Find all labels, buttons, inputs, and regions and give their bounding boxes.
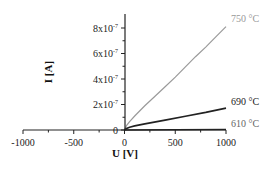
y-tick-label: 2x10-7 — [93, 99, 118, 110]
series-line — [125, 27, 227, 130]
x-tick-label: -1000 — [11, 137, 34, 148]
x-tick-label: 500 — [168, 137, 183, 148]
series-label: 690 °C — [231, 96, 259, 107]
y-tick-label: 8x10-7 — [93, 23, 118, 34]
series-labels: 750 °C690 °C610 °C — [231, 13, 259, 129]
y-tick-label: 0 — [113, 125, 118, 136]
x-axis-title: U [V] — [112, 147, 138, 159]
iv-chart: -1000-50005001000 02x10-74x10-76x10-78x1… — [0, 0, 274, 174]
series-label: 750 °C — [231, 13, 259, 24]
x-ticks: -1000-50005001000 — [11, 130, 236, 148]
series-layer — [125, 27, 227, 130]
y-ticks: 02x10-74x10-76x10-78x10-7 — [93, 23, 125, 136]
x-tick-label: 1000 — [216, 137, 236, 148]
y-axis-title: I [A] — [42, 61, 54, 83]
series-label: 610 °C — [231, 118, 259, 129]
y-tick-label: 4x10-7 — [93, 74, 118, 85]
x-tick-label: -500 — [65, 137, 83, 148]
y-tick-label: 6x10-7 — [93, 48, 118, 59]
